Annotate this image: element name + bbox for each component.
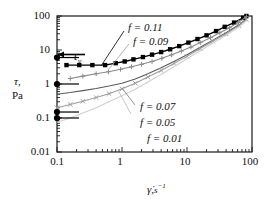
y-tick-label-100: 100 (18, 10, 50, 21)
x-axis-title: γ̇,s−1 (136, 172, 166, 206)
series-label-f005: f = 0.05 (140, 117, 175, 128)
y-axis-title-symbol: τ, (14, 76, 21, 87)
rheology-chart-figure: 100 10 1 0.1 0.01 0.1 1 10 100 τ, Pa γ̇,… (0, 0, 271, 206)
x-tick-label-10: 10 (170, 156, 200, 167)
y-tick-label-10: 10 (18, 44, 50, 55)
series-label-f001: f = 0.01 (147, 133, 182, 144)
x-tick-label-1: 1 (105, 156, 135, 167)
series-label-f011: f = 0.11 (128, 22, 162, 33)
tau-y-label: τy (60, 36, 81, 79)
y-tick-label-1: 1 (18, 78, 50, 89)
tau-y-subscript: y (78, 57, 82, 66)
y-axis-title-units: Pa (12, 90, 23, 101)
series-label-f007: f = 0.07 (140, 101, 175, 112)
y-tick-label-0.1: 0.1 (18, 112, 50, 123)
x-tick-label-100: 100 (235, 156, 265, 167)
x-axis-title-exponent: −1 (158, 182, 166, 190)
x-tick-label-0.1: 0.1 (42, 156, 72, 167)
series-label-f009: f = 0.09 (133, 36, 168, 47)
